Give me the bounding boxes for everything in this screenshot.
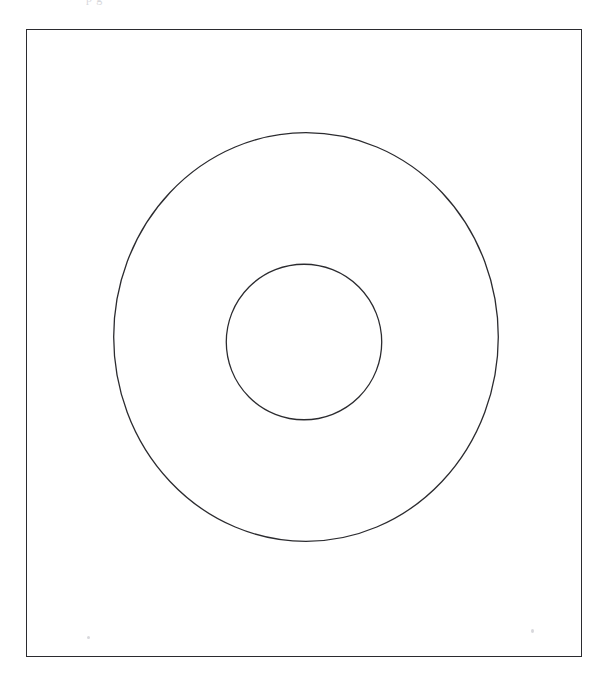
dust-speck-right (531, 629, 534, 633)
figure-page: p g (0, 0, 607, 680)
figure-border (26, 29, 582, 657)
page-header-text: p g (86, 0, 506, 5)
dust-speck-left (87, 636, 90, 639)
annulus-diagram (27, 30, 581, 656)
inner-circle (226, 264, 381, 420)
outer-circle (114, 133, 499, 542)
